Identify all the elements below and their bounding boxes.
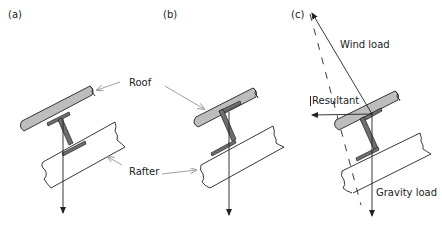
roof-a: [20, 86, 95, 131]
panel-label-b: (b): [163, 10, 177, 20]
panel-label-a: (a): [8, 10, 22, 20]
resultant-label: Resultant: [310, 96, 359, 106]
gravity-load-label: Gravity load: [376, 188, 437, 198]
panel-b: [194, 88, 284, 215]
wind-load-label: Wind load: [340, 40, 390, 50]
roof-label: Roof: [129, 78, 151, 88]
rafter-a: [42, 122, 125, 188]
panel-a: [20, 86, 125, 213]
rafter-c: [341, 133, 431, 193]
rafter-label: Rafter: [129, 167, 159, 177]
rafter-b: [200, 126, 284, 188]
leaders: [97, 82, 204, 174]
panel-label-c: (c): [291, 10, 304, 20]
